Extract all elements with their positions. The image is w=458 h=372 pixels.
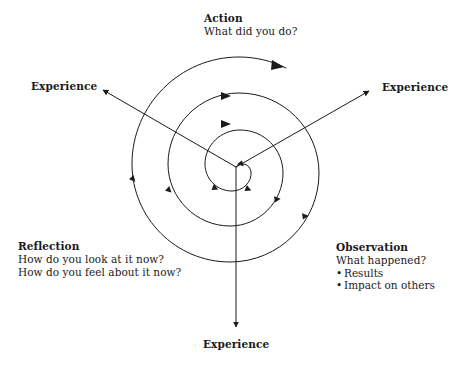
spiral-path: [132, 57, 319, 262]
spiral-arrow-ring2-lower-left: [210, 184, 219, 193]
spiral-arrow-inner: [236, 161, 244, 169]
axis-line-upper-right: [236, 91, 369, 167]
reflection-line-1: How do you look at it now?: [18, 253, 181, 266]
observation-bullet-2: Impact on others: [336, 279, 435, 292]
reflection-heading: Reflection: [18, 240, 181, 253]
spiral-arrow-ring2-left: [164, 186, 171, 194]
axis-label-experience-left: Experience: [31, 80, 97, 92]
observation-line-1: What happened?: [336, 254, 435, 267]
spiral-arrow-ring3-lower-right: [300, 212, 309, 221]
observation-bullet-1: Results: [336, 267, 435, 280]
axis-label-experience-bottom: Experience: [203, 338, 269, 350]
axis-line-upper-left: [103, 90, 236, 167]
axis-label-experience-right: Experience: [382, 81, 448, 93]
spiral-arrow-inner-lower: [243, 185, 252, 194]
block-action: Action What did you do?: [204, 12, 297, 38]
spiral-path-group: [132, 57, 319, 262]
spiral-arrow-outer-end: [271, 60, 284, 70]
spiral-arrow-ring3-left: [129, 175, 136, 182]
spiral-arrow-ring2-top: [221, 120, 231, 128]
action-heading: Action: [204, 12, 297, 25]
diagram-canvas: Action What did you do? Reflection How d…: [0, 0, 458, 372]
observation-bullet-list: Results Impact on others: [336, 267, 435, 293]
spiral-arrow-ring2-lower-right: [272, 195, 281, 204]
observation-heading: Observation: [336, 241, 435, 254]
action-line-1: What did you do?: [204, 25, 297, 38]
block-reflection: Reflection How do you look at it now? Ho…: [18, 240, 181, 278]
block-observation: Observation What happened? Results Impac…: [336, 241, 435, 292]
reflection-line-2: How do you feel about it now?: [18, 266, 181, 279]
spiral-diagram-graphic: [0, 0, 458, 372]
